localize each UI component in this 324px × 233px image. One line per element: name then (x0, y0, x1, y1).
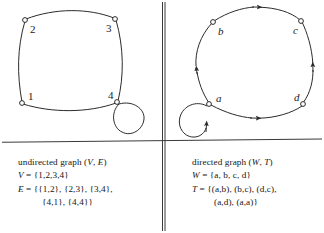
edge-a-b-lower (197, 72, 209, 103)
caption-right-line-2: W = {a, b, c, d} (192, 169, 277, 182)
caption-left-line2-rest: = {1,2,3,4} (24, 170, 69, 180)
caption-left-line-4: {4,1}, {4,4}} (18, 196, 113, 209)
node-a-dot (207, 102, 212, 107)
caption-right-line2-rest: = {a, b, c, d} (200, 170, 251, 180)
undirected-graph-node-labels: 1 2 3 4 (28, 22, 114, 102)
edge-d-c-lower (303, 70, 313, 103)
node-label-2: 2 (30, 23, 36, 35)
caption-left-line-2: V = {1,2,3,4} (18, 169, 113, 182)
edge-a-b-upper (196, 23, 212, 66)
edge-4-1 (23, 103, 116, 111)
edge-a-d-right (259, 106, 302, 118)
node-label-4: 4 (108, 89, 114, 101)
node-label-c: c (293, 24, 298, 36)
node-label-d: d (294, 91, 300, 103)
edge-d-c-upper (302, 22, 313, 63)
caption-right-line-3: T = {(a,b), (b,c), (d,c), (192, 183, 277, 196)
node-label-1: 1 (28, 90, 34, 102)
graph-figure: 1 2 3 4 (0, 0, 324, 233)
undirected-graph-caption: undirected graph (V, E) V = {1,2,3,4} E … (18, 156, 113, 210)
edge-a-d-left (211, 105, 252, 118)
edge-4-4-self-loop (114, 103, 144, 134)
caption-right-line1-text: directed graph ( (192, 157, 252, 167)
node-c-dot (299, 19, 304, 24)
edge-3-4 (116, 20, 122, 101)
node-b-dot (211, 20, 216, 25)
node-2-dot (23, 18, 28, 23)
node-d-dot (301, 102, 306, 107)
edge-b-c-left (214, 7, 254, 21)
caption-right-line-1: directed graph (W, T) (192, 156, 277, 169)
caption-left-line1-close: ) (103, 157, 106, 167)
caption-right-line1-w: W (252, 157, 260, 167)
directed-graph-caption: directed graph (W, T) W = {a, b, c, d} T… (192, 156, 277, 210)
caption-right-line-4: (a,d), (a,a)} (192, 196, 277, 209)
caption-right-line3-rest: = {(a,b), (b,c), (d,c), (197, 184, 276, 194)
caption-left-line3-rest: = {{1,2}, {2,3}, {3,4}, (24, 184, 113, 194)
edge-b-c-right (260, 7, 300, 20)
caption-left-line1-text: undirected graph ( (18, 157, 87, 167)
caption-right-line1-close: ) (270, 157, 273, 167)
edge-1-2 (19, 21, 25, 102)
edge-a-a-self-loop-main (179, 104, 207, 137)
node-3-dot (113, 17, 118, 22)
directed-graph-node-labels: a b c d (216, 24, 300, 104)
node-1-dot (20, 101, 25, 106)
node-4-dot (115, 100, 120, 105)
node-label-b: b (218, 25, 224, 37)
edge-2-3 (26, 11, 114, 19)
node-label-3: 3 (106, 22, 112, 34)
divider-vertical (163, 2, 166, 231)
caption-left-line-3: E = {{1,2}, {2,3}, {3,4}, (18, 183, 113, 196)
undirected-graph-drawing (19, 11, 144, 134)
edge-a-a-self-loop-arrow (206, 123, 207, 132)
caption-right-line2-var: W (192, 170, 200, 180)
node-label-a: a (216, 92, 222, 104)
edge-a-b-arrow-seg (196, 68, 197, 74)
caption-left-line-1: undirected graph (V, E) (18, 156, 113, 169)
